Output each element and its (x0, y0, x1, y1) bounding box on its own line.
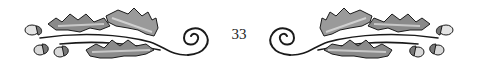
oak-leaf-acorn-vine-left-icon (0, 0, 220, 72)
acorn-icon (436, 25, 453, 35)
acorn-icon (25, 25, 42, 35)
acorn-icon (410, 46, 424, 57)
oak-leaf-icon (48, 14, 110, 32)
acorn-icon (430, 44, 444, 55)
acorn-icon (34, 44, 48, 55)
acorn-icon (54, 46, 68, 57)
oak-leaf-icon (368, 14, 430, 32)
oak-leaf-acorn-vine-right-icon (258, 0, 478, 72)
page-number-ornament: 33 (0, 0, 478, 72)
page-number: 33 (224, 26, 254, 43)
